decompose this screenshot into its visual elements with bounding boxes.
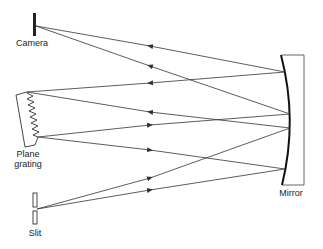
slit-icon [33, 193, 37, 224]
grating-label-line2: grating [8, 159, 48, 169]
mirror-label: Mirror [273, 188, 309, 198]
grating-label-line1: Plane [8, 149, 48, 159]
concave-mirror-icon [281, 55, 304, 185]
camera-label: Camera [12, 38, 52, 48]
slit-label: Slit [20, 228, 50, 238]
light-rays [27, 26, 290, 209]
camera-icon [33, 13, 36, 36]
plane-grating-icon [16, 92, 39, 147]
